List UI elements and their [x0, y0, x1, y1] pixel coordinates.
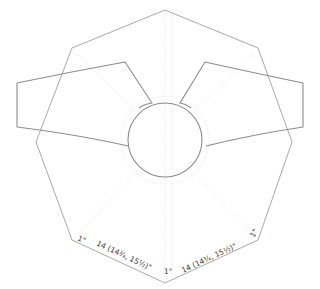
bottom-corner-label: 1": [164, 267, 172, 276]
right-edge-label: 14 (14¾, 15½)": [180, 241, 238, 274]
left-edge-label: 14 (14¾, 15½)": [95, 239, 153, 272]
right-corner-label: 1": [248, 227, 260, 239]
schematic-diagram: 1" 14 (14¾, 15½)" 1" 14 (14¾, 15½)" 1": [0, 0, 320, 289]
right-sleeve-piece: [180, 62, 303, 146]
outer-heptagon-outline: [36, 10, 292, 283]
left-sleeve-piece: [17, 62, 152, 146]
measurement-labels: 1" 14 (14¾, 15½)" 1" 14 (14¾, 15½)" 1": [76, 227, 260, 276]
